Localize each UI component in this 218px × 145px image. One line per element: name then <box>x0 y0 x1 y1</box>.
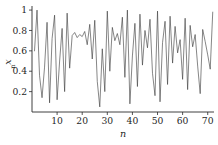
y-tick-label: 0.2 <box>12 86 27 97</box>
chart-figure: 0.20.40.60.81 10203040506070 x n n <box>0 0 218 145</box>
x-axis-title: n <box>120 128 126 139</box>
x-axis-ticks: 10203040506070 <box>51 112 213 126</box>
y-axis-title: x n <box>2 59 17 69</box>
x-tick-label: 50 <box>152 115 164 126</box>
y-tick-label: 0.6 <box>12 45 27 56</box>
y-axis-ticks: 0.20.40.60.81 <box>12 4 32 97</box>
y-axis-title-text: x <box>2 59 13 65</box>
x-tick-label: 60 <box>177 115 189 126</box>
x-tick-label: 10 <box>51 115 63 126</box>
y-tick-label: 1 <box>21 4 27 15</box>
x-tick-label: 70 <box>202 115 214 126</box>
x-tick-label: 40 <box>127 115 139 126</box>
x-tick-label: 30 <box>101 115 113 126</box>
y-tick-label: 0.8 <box>12 25 27 36</box>
x-tick-label: 20 <box>76 115 88 126</box>
series-line-xn <box>35 10 213 107</box>
time-series-chart: 0.20.40.60.81 10203040506070 x n n <box>0 0 218 145</box>
